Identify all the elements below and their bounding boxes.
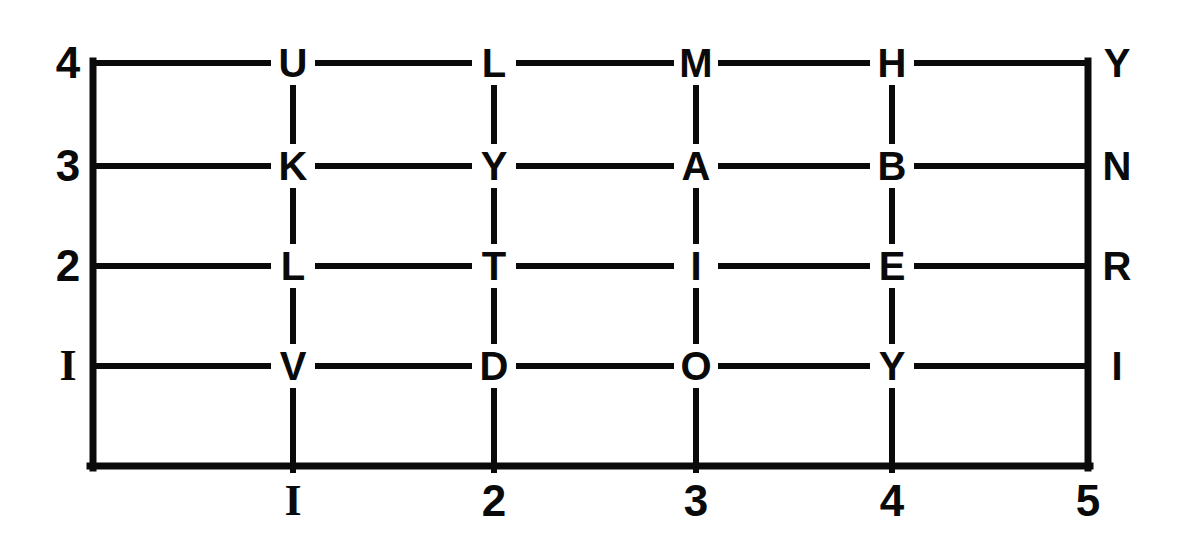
- node-c3-r3: A: [674, 144, 718, 188]
- y-axis-tick-1: I: [45, 342, 91, 390]
- node-c2-r2: T: [472, 244, 516, 288]
- node-c4-r1: Y: [870, 344, 914, 388]
- node-c2-r4: L: [472, 41, 516, 85]
- node-c4-r2: E: [870, 244, 914, 288]
- y-axis-tick-4: 4: [45, 39, 91, 87]
- x-axis-tick-2: 2: [471, 477, 517, 525]
- lattice-diagram: 4 3 2 I I 2 3 4 5 U L M H Y K Y A B N L …: [0, 0, 1182, 540]
- node-c4-r3: B: [870, 144, 914, 188]
- edge-label-r3: N: [1095, 144, 1139, 188]
- node-c2-r1: D: [472, 344, 516, 388]
- y-axis-tick-3: 3: [45, 142, 91, 190]
- edge-label-r2: R: [1095, 244, 1139, 288]
- node-c3-r1: O: [674, 344, 718, 388]
- node-c1-r1: V: [271, 344, 315, 388]
- node-c1-r3: K: [271, 144, 315, 188]
- x-axis-tick-3: 3: [673, 477, 719, 525]
- node-c1-r2: L: [271, 244, 315, 288]
- edge-label-r4: Y: [1095, 41, 1139, 85]
- node-c4-r4: H: [870, 41, 914, 85]
- node-c2-r3: Y: [472, 144, 516, 188]
- lattice-grid-svg: [0, 0, 1182, 540]
- node-c3-r2: I: [674, 244, 718, 288]
- y-axis-tick-2: 2: [45, 242, 91, 290]
- x-axis-tick-5: 5: [1065, 477, 1111, 525]
- x-axis-tick-1: I: [270, 477, 316, 525]
- edge-label-r1: I: [1095, 344, 1139, 388]
- node-c3-r4: M: [674, 41, 718, 85]
- node-c1-r4: U: [271, 41, 315, 85]
- horizontal-gridlines: [93, 63, 1088, 366]
- x-axis-tick-4: 4: [869, 477, 915, 525]
